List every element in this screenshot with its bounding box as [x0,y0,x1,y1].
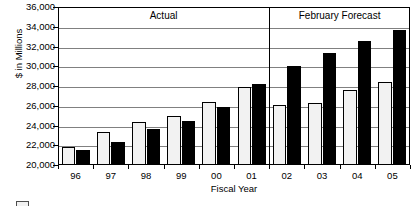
section-divider [269,7,270,165]
bar-99-dark [182,121,196,165]
y-axis-tick-label: 28,000 [3,81,55,91]
x-axis-tick-label-05: 05 [372,170,412,181]
y-axis-tick-label: 24,000 [3,121,55,131]
y-axis-title: $ in Millions [13,0,24,109]
bar-04-dark [358,41,372,165]
bars-layer [58,7,410,165]
bar-05-dark [393,30,407,165]
bar-05-light [378,82,392,165]
y-axis-tick-label: 22,000 [3,140,55,150]
bar-98-light [132,122,146,165]
x-axis-tick-label-97: 97 [91,170,131,181]
section-label-forecast: February Forecast [260,10,417,21]
x-axis-tick-label-01: 01 [232,170,272,181]
section-label-actual: Actual [84,10,244,21]
y-axis-tick-label: 26,000 [3,101,55,111]
bar-97-dark [111,142,125,165]
x-axis-tick-label-02: 02 [267,170,307,181]
x-axis-tick-label-03: 03 [302,170,342,181]
x-axis-tick-mark [199,165,200,169]
x-axis-tick-mark [375,165,376,169]
bar-01-dark [252,84,266,165]
x-axis-tick-mark [269,165,270,169]
x-axis-tick-mark [410,165,411,169]
bar-01-light [238,87,252,166]
legend-swatch-light [16,201,29,206]
x-axis-tick-mark [164,165,165,169]
y-axis-tick-label: 34,000 [3,22,55,32]
y-axis-tick-label: 32,000 [3,42,55,52]
bar-03-light [308,103,322,165]
x-axis-tick-mark [93,165,94,169]
bar-97-light [97,132,111,165]
bar-00-dark [217,107,231,165]
x-axis-tick-label-98: 98 [126,170,166,181]
x-axis-tick-mark [304,165,305,169]
bar-99-light [167,116,181,165]
y-axis-tick-label: 30,000 [3,61,55,71]
x-axis-tick-mark [234,165,235,169]
x-axis-tick-label-00: 00 [196,170,236,181]
bar-03-dark [323,53,337,165]
x-axis-tick-label-96: 96 [56,170,96,181]
x-axis-title: Fiscal Year [58,183,410,194]
y-axis-tick-label: 36,000 [3,2,55,12]
bar-02-dark [287,66,301,165]
bar-96-light [62,147,76,165]
bar-02-light [273,105,287,165]
x-axis-tick-mark [58,165,59,169]
y-axis-tick-label: 20,000 [3,160,55,170]
bar-04-light [343,90,357,165]
bar-96-dark [76,150,90,165]
legend [16,201,33,206]
x-axis-tick-label-04: 04 [337,170,377,181]
x-axis-tick-mark [128,165,129,169]
bar-chart: $ in Millions 20,00022,00024,00026,00028… [0,0,417,206]
bar-98-dark [147,129,161,165]
bar-00-light [202,102,216,165]
x-axis-tick-mark [340,165,341,169]
x-axis-tick-label-99: 99 [161,170,201,181]
